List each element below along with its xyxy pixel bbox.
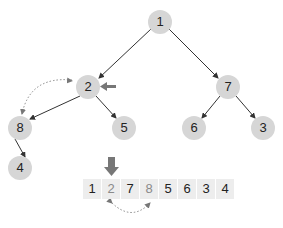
array-cell-6: 3 xyxy=(197,179,215,199)
edge-1-2 xyxy=(99,29,151,78)
edge-2-5 xyxy=(96,96,116,118)
array-cell-4: 5 xyxy=(159,179,177,199)
edge-1-7 xyxy=(169,29,218,78)
tree-node-8: 8 xyxy=(8,116,32,140)
array-cell-1: 2 xyxy=(102,179,120,199)
heap-diagram: 1 2 7 8 5 6 3 4 1 2 7 8 5 6 3 4 xyxy=(0,0,283,228)
edge-2-8 xyxy=(30,96,80,119)
edge-7-3 xyxy=(236,96,255,118)
swap-arc-array xyxy=(112,203,150,213)
pointer-arrow-icon xyxy=(100,82,116,91)
tree-node-3: 3 xyxy=(251,116,275,140)
edge-8-4 xyxy=(15,139,25,157)
array-cell-0: 1 xyxy=(83,179,101,199)
swap-arc-tree xyxy=(22,80,72,114)
array-cell-5: 6 xyxy=(178,179,196,199)
tree-node-4: 4 xyxy=(8,156,32,180)
array-cell-3: 8 xyxy=(140,179,158,199)
tree-node-5: 5 xyxy=(112,116,136,140)
tree-node-6: 6 xyxy=(182,116,206,140)
array-cell-7: 4 xyxy=(216,179,234,199)
tree-node-2: 2 xyxy=(76,75,100,99)
array-cell-2: 7 xyxy=(121,179,139,199)
down-arrow-icon xyxy=(104,157,119,176)
edge-7-6 xyxy=(202,96,220,118)
tree-node-7: 7 xyxy=(216,75,240,99)
tree-node-1: 1 xyxy=(148,10,172,34)
